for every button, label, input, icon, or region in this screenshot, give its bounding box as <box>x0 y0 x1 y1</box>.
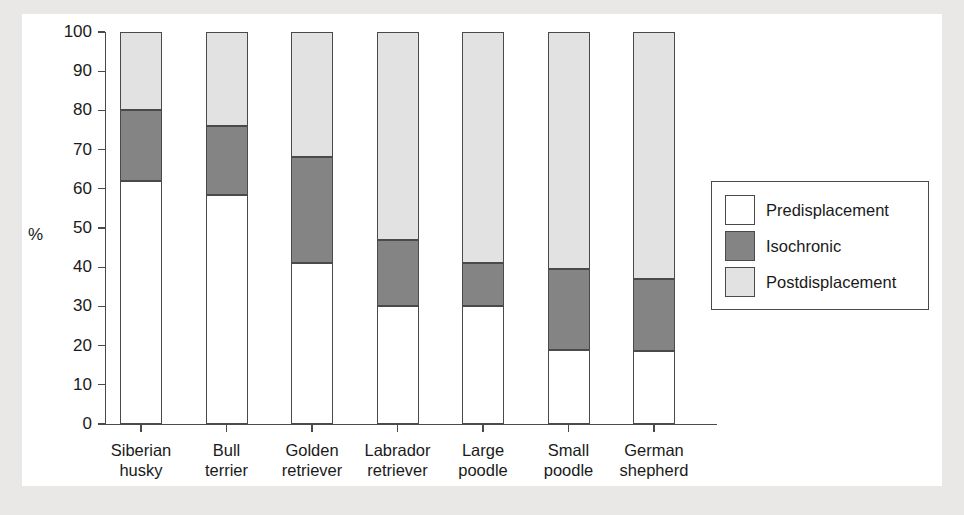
bar-segment-postdisplacement <box>377 32 419 240</box>
y-tick-label: 70 <box>32 141 92 158</box>
y-tick-label: 60 <box>32 180 92 197</box>
y-tick-mark <box>98 227 105 228</box>
bar-segment-isochronic <box>206 126 248 195</box>
stacked-bar <box>633 32 675 424</box>
stacked-bar <box>377 32 419 424</box>
chart-screenshot: % 0102030405060708090100 SiberianhuskyBu… <box>0 0 964 515</box>
x-tick-mark <box>397 425 398 432</box>
legend-swatch-pre <box>725 195 755 225</box>
bar-segment-isochronic <box>462 263 504 306</box>
y-tick-mark <box>98 149 105 150</box>
bar-segment-isochronic <box>548 269 590 349</box>
legend-label: Isochronic <box>766 237 841 256</box>
y-tick-label: 90 <box>32 62 92 79</box>
y-tick-label: 30 <box>32 297 92 314</box>
bar-segment-postdisplacement <box>548 32 590 269</box>
y-tick-label: 100 <box>32 23 92 40</box>
y-tick-mark <box>98 423 105 424</box>
bar-segment-predisplacement <box>462 306 504 424</box>
y-tick-label: 0 <box>32 415 92 432</box>
stacked-bar <box>120 32 162 424</box>
bar-segment-predisplacement <box>291 263 333 424</box>
plot-area: % 0102030405060708090100 SiberianhuskyBu… <box>0 0 964 515</box>
legend-item-post[interactable]: Postdisplacement <box>725 265 896 299</box>
y-tick-label: 20 <box>32 337 92 354</box>
y-tick-label-wrap: 10 <box>0 376 92 377</box>
y-tick-mark <box>98 345 105 346</box>
bar-segment-postdisplacement <box>633 32 675 279</box>
legend-swatch-post <box>725 267 755 297</box>
x-tick-mark <box>482 425 483 432</box>
bar-segment-isochronic <box>291 157 333 263</box>
bar-segment-predisplacement <box>633 351 675 424</box>
y-tick-mark <box>98 188 105 189</box>
y-tick-mark <box>98 306 105 307</box>
y-tick-label: 80 <box>32 101 92 118</box>
legend-item-pre[interactable]: Predisplacement <box>725 193 889 227</box>
bar-segment-predisplacement <box>120 181 162 424</box>
bar-segment-predisplacement <box>377 306 419 424</box>
x-axis-category-label: Germanshepherd <box>602 440 706 480</box>
y-tick-label: 50 <box>32 219 92 236</box>
y-tick-mark <box>98 384 105 385</box>
bar-segment-postdisplacement <box>462 32 504 263</box>
y-tick-label-wrap: 50 <box>0 219 92 220</box>
y-tick-label-wrap: 60 <box>0 180 92 181</box>
x-axis-line <box>105 424 717 425</box>
stacked-bar <box>462 32 504 424</box>
x-axis-category-label-line: German <box>602 440 706 460</box>
x-axis-category-label-line: shepherd <box>602 460 706 480</box>
bar-segment-predisplacement <box>206 195 248 424</box>
y-tick-label-wrap: 0 <box>0 415 92 416</box>
legend-box: PredisplacementIsochronicPostdisplacemen… <box>711 181 929 310</box>
bar-segment-postdisplacement <box>206 32 248 126</box>
y-tick-mark <box>98 110 105 111</box>
x-tick-mark <box>226 425 227 432</box>
y-tick-label-wrap: 40 <box>0 258 92 259</box>
y-tick-label: 10 <box>32 376 92 393</box>
legend-item-iso[interactable]: Isochronic <box>725 229 841 263</box>
y-tick-label-wrap: 70 <box>0 141 92 142</box>
bar-segment-isochronic <box>120 110 162 181</box>
legend-label: Predisplacement <box>766 201 889 220</box>
y-tick-label-wrap: 30 <box>0 297 92 298</box>
y-tick-mark <box>98 71 105 72</box>
y-axis-line <box>105 32 106 425</box>
legend-swatch-iso <box>725 231 755 261</box>
stacked-bar <box>291 32 333 424</box>
y-tick-label-wrap: 90 <box>0 62 92 63</box>
bar-segment-isochronic <box>633 279 675 352</box>
x-tick-mark <box>311 425 312 432</box>
y-tick-label-wrap: 20 <box>0 337 92 338</box>
bar-segment-predisplacement <box>548 350 590 424</box>
y-tick-label-wrap: 100 <box>0 23 92 24</box>
legend-label: Postdisplacement <box>766 273 896 292</box>
bar-segment-isochronic <box>377 240 419 307</box>
y-tick-mark <box>98 31 105 32</box>
x-tick-mark <box>568 425 569 432</box>
y-tick-mark <box>98 267 105 268</box>
bar-segment-postdisplacement <box>120 32 162 110</box>
stacked-bar <box>206 32 248 424</box>
x-tick-mark <box>653 425 654 432</box>
y-tick-label: 40 <box>32 258 92 275</box>
y-tick-label-wrap: 80 <box>0 101 92 102</box>
x-tick-mark <box>140 425 141 432</box>
bar-segment-postdisplacement <box>291 32 333 157</box>
stacked-bar <box>548 32 590 424</box>
